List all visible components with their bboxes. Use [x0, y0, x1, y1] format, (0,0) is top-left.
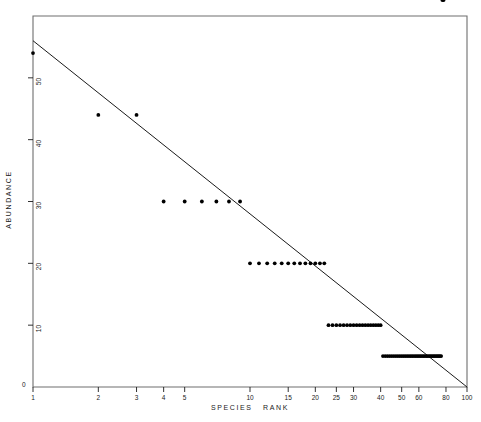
origin-label: 0: [22, 381, 26, 388]
y-tick-label: 30: [35, 202, 42, 216]
x-axis-ticks: [33, 387, 467, 392]
x-tick-label: 80: [442, 394, 449, 401]
y-tick-label: 50: [35, 78, 42, 92]
x-tick-label: 20: [312, 394, 319, 401]
x-tick-label: 3: [135, 394, 139, 401]
x-tick-label: 50: [398, 394, 405, 401]
y-tick-label: 20: [35, 263, 42, 277]
x-tick-label: 1: [31, 394, 35, 401]
fitted-line: [33, 41, 467, 387]
x-tick-label: 40: [377, 394, 384, 401]
x-tick-label: 10: [246, 394, 253, 401]
x-tick-label: 5: [183, 394, 187, 401]
chart-canvas: [0, 0, 481, 422]
x-axis-title: SPECIES RANK: [180, 404, 320, 411]
x-tick-label: 60: [415, 394, 422, 401]
y-axis-ticks: [28, 78, 33, 325]
y-tick-label: 10: [35, 325, 42, 339]
y-axis-title: ABUNDANCE: [5, 164, 12, 236]
x-tick-label: 2: [97, 394, 101, 401]
x-tick-label: 100: [462, 394, 473, 401]
species-rank-abundance-chart: ABUNDANCE SPECIES RANK 12345101520253040…: [0, 0, 481, 422]
x-tick-label: 30: [350, 394, 357, 401]
x-tick-label: 25: [333, 394, 340, 401]
plot-frame: [33, 16, 467, 387]
x-tick-label: 15: [285, 394, 292, 401]
y-tick-label: 40: [35, 140, 42, 154]
data-points: [31, 0, 445, 358]
x-tick-label: 4: [162, 394, 166, 401]
